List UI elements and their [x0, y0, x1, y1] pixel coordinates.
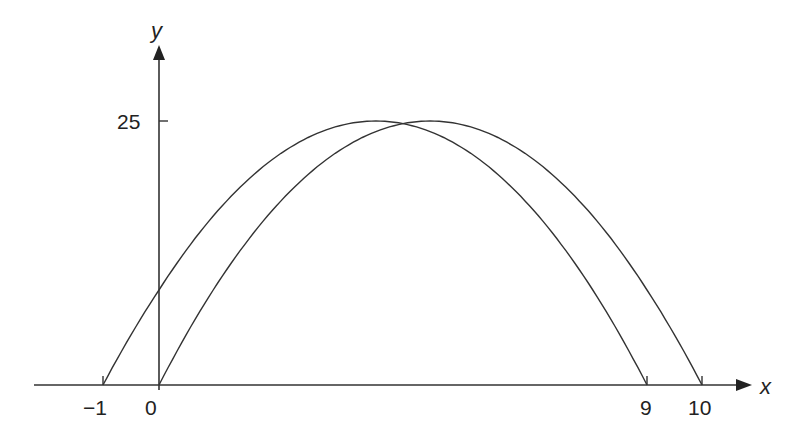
- y-axis-label: y: [149, 18, 164, 43]
- x-tick-label-0: 0: [145, 396, 157, 419]
- curve-left-parabola: [103, 121, 647, 385]
- x-axis-arrow-icon: [736, 379, 752, 391]
- x-tick-label-9: 9: [640, 396, 652, 419]
- curve-right-parabola: [159, 121, 702, 385]
- y-tick-label-25: 25: [117, 110, 140, 133]
- x-axis-label: x: [759, 374, 772, 399]
- parabola-diagram: x y 25 −1 0 9 10: [0, 0, 807, 443]
- x-tick-label-10: 10: [688, 396, 711, 419]
- y-axis-arrow-icon: [153, 45, 165, 60]
- x-tick-label-neg1: −1: [83, 396, 107, 419]
